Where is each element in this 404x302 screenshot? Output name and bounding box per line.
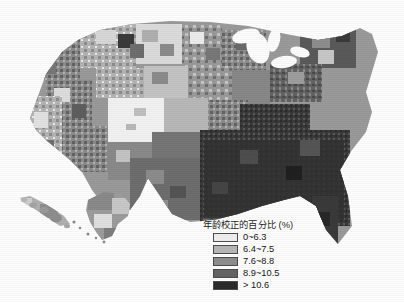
legend-label-4: > 10.6 — [243, 280, 269, 290]
legend-item-1: 6.4~7.5 — [202, 243, 322, 255]
legend-item-2: 7.6~8.8 — [202, 255, 322, 267]
region-corn-belt — [188, 66, 232, 100]
region-appalachia — [240, 104, 310, 134]
legend-item-3: 8.9~10.5 — [202, 267, 322, 279]
legend-swatch-1 — [213, 245, 238, 254]
legend-swatch-4 — [213, 281, 238, 290]
legend-swatch-0 — [213, 233, 238, 242]
region-kansas — [164, 98, 208, 132]
map-legend: 年龄校正的百分比 (%) 0~6.3 6.4~7.5 7.6~8.8 8.9~1… — [202, 219, 322, 291]
region-wyoming — [96, 68, 144, 98]
region-upper-midwest — [182, 24, 222, 68]
legend-label-2: 7.6~8.8 — [243, 256, 274, 266]
legend-title: 年龄校正的百分比 (%) — [202, 219, 322, 231]
legend-label-3: 8.9~10.5 — [243, 268, 279, 278]
region-ohio-valley — [232, 70, 270, 104]
region-oklahoma — [152, 132, 200, 158]
legend-swatch-3 — [213, 269, 238, 278]
legend-label-0: 0~6.3 — [243, 232, 267, 242]
legend-swatch-2 — [213, 257, 238, 266]
choropleth-figure: 年龄校正的百分比 (%) 0~6.3 6.4~7.5 7.6~8.8 8.9~1… — [0, 0, 404, 302]
legend-item-4: > 10.6 — [202, 279, 322, 291]
legend-item-0: 0~6.3 — [202, 231, 322, 243]
legend-label-1: 6.4~7.5 — [243, 244, 274, 254]
